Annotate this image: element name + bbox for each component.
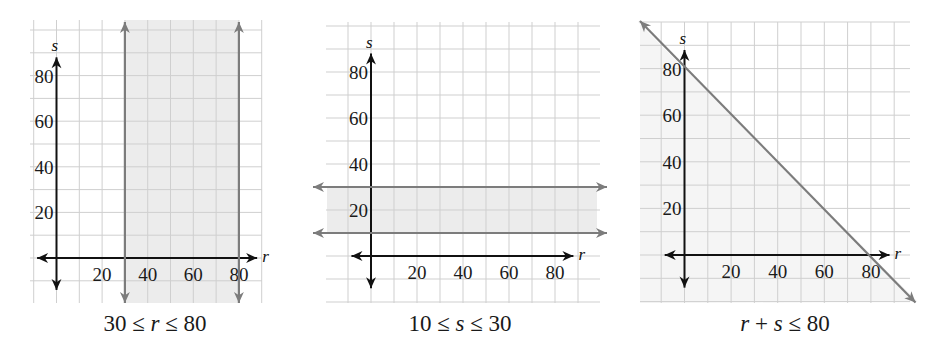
- x-tick-label: 20: [722, 261, 741, 282]
- s-axis-label: s: [680, 29, 687, 48]
- caption-graph-2: 10 ≤ s ≤ 30: [385, 310, 535, 338]
- caption-text: 10 ≤: [408, 311, 455, 336]
- x-tick-label: 40: [768, 261, 787, 282]
- y-tick-label: 40: [663, 152, 682, 173]
- y-tick-label: 20: [663, 198, 682, 219]
- figure: rs2040608020406080 rs2040608020406080 rs…: [0, 0, 926, 346]
- caption-text: ≤ 80: [159, 311, 206, 336]
- caption-graph-1: 30 ≤ r ≤ 80: [80, 310, 230, 338]
- caption-text: ≤ 80: [783, 311, 830, 336]
- x-tick-label: 60: [815, 261, 834, 282]
- caption-graph-3: r + s ≤ 80: [710, 310, 860, 338]
- r-axis-label: r: [895, 244, 902, 263]
- caption-variable: r: [740, 311, 749, 336]
- caption-variable: s: [774, 311, 783, 336]
- graph-r-plus-s-le-80: rs2040608020406080: [0, 0, 926, 346]
- caption-text: ≤ 30: [464, 311, 511, 336]
- caption-text: +: [749, 311, 773, 336]
- caption-text: 30 ≤: [103, 311, 150, 336]
- y-tick-label: 60: [663, 105, 682, 126]
